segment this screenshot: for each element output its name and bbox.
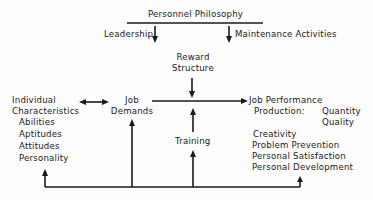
reward-label-line2: Structure [168,63,218,74]
performance-item: Creativity [253,129,297,140]
leadership-label: Leadership [104,29,153,40]
individual-item: Personality [19,153,69,164]
performance-item: Personal Development [252,162,353,173]
job-demands-line2: Demands [110,106,154,117]
job-performance-heading: Job Performance [249,95,322,106]
individual-heading-line1: Individual [12,95,56,106]
individual-item: Abilities [19,117,55,128]
personnel-philosophy-label: Personnel Philosophy [148,9,243,20]
personnel-diagram: Personnel Philosophy Leadership Maintena… [0,0,373,200]
job-demands-line1: Job [112,95,152,106]
production-item: Quantity [322,106,361,117]
training-label: Training [175,136,211,147]
reward-label-line1: Reward [172,52,214,63]
production-item: Quality [322,117,354,128]
individual-item: Aptitudes [19,129,62,140]
individual-item: Attitudes [19,141,60,152]
individual-heading-line2: Characteristics [12,106,79,117]
maintenance-activities-label: Maintenance Activities [235,29,337,40]
performance-item: Problem Prevention [252,140,339,151]
performance-item: Personal Satisfaction [252,151,346,162]
production-label: Production: [254,106,305,117]
